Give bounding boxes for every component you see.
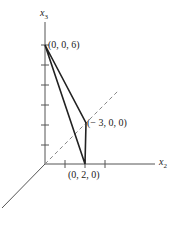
x3-label-sub: 3 [44, 13, 48, 21]
x3-axis-label: x3 [40, 8, 48, 21]
x2-label-sub: 2 [163, 162, 167, 170]
point-label-p2: (− 3, 0, 0) [87, 118, 127, 128]
x2-axis-label: x2 [159, 157, 167, 170]
point-label-p3: (0, 2, 0) [68, 170, 100, 180]
triangle [45, 45, 86, 164]
x1-axis [2, 164, 45, 208]
point-label-p1: (0, 0, 6) [48, 40, 80, 50]
